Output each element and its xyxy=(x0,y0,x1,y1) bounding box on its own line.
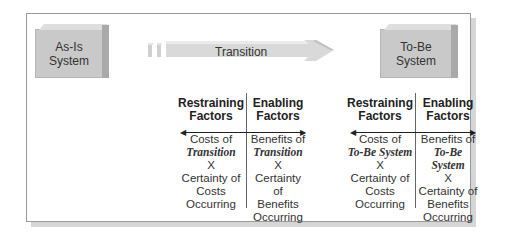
box-side-face xyxy=(102,25,109,78)
right-enabling-column: Enabling Factors Benefits of To-Be Syste… xyxy=(417,97,479,224)
left-enabling-column: Enabling Factors Benefits of Transition … xyxy=(250,97,306,224)
to-be-system-box: To-Be System xyxy=(380,29,452,78)
as-is-system-box: As-Is System xyxy=(35,29,103,78)
box-side-face xyxy=(451,25,458,78)
right-restraining-column: Restraining Factors Costs of To-Be Syste… xyxy=(347,97,413,211)
transition-label: Transition xyxy=(215,45,267,59)
to-be-label-line2: System xyxy=(396,54,436,68)
box-top-face xyxy=(384,24,457,30)
right-divider xyxy=(415,93,416,208)
as-is-label-line1: As-Is xyxy=(55,40,82,54)
as-is-label-line2: System xyxy=(49,54,89,68)
box-top-face xyxy=(39,24,108,30)
left-restraining-column: Restraining Factors Costs of Transition … xyxy=(178,97,244,211)
to-be-label-line1: To-Be xyxy=(400,40,431,54)
left-divider xyxy=(246,93,247,208)
